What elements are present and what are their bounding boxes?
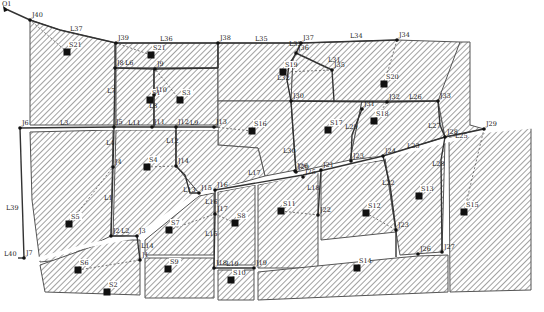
subcatchment-label: S21 — [69, 41, 82, 49]
junction-label: J22 — [319, 206, 331, 214]
link-l6[interactable] — [115, 68, 218, 69]
junction-label: J16 — [216, 181, 228, 189]
subcatchment-marker[interactable] — [66, 221, 73, 228]
link-l4[interactable] — [113, 127, 114, 167]
subcatchment-label: S21 — [153, 44, 166, 52]
link-label: L23 — [407, 142, 420, 150]
junction-label: J3 — [138, 227, 146, 235]
link-label: L25 — [455, 132, 468, 140]
subcatchment-marker[interactable] — [104, 289, 111, 296]
drainage-network-map: S1S2S3S4S5S6S7S8S9S10S11S12S13S14S15S16S… — [0, 0, 544, 312]
junction-label: J33 — [439, 92, 451, 100]
junction-label: J20 — [297, 163, 309, 171]
junction-label: J10 — [155, 86, 167, 94]
subcatchment-marker[interactable] — [232, 220, 239, 227]
link-l15[interactable] — [214, 214, 215, 268]
subcatchment-label: S3 — [182, 89, 191, 97]
link-label: L8 — [149, 102, 157, 110]
junction-label: J9 — [156, 60, 164, 68]
junction-label: J13 — [215, 118, 227, 126]
link-label: L12 — [166, 137, 179, 145]
subcatchment-marker[interactable] — [64, 49, 71, 56]
junction-label: J34 — [398, 31, 410, 39]
link-label: L27 — [428, 122, 441, 130]
subcatchment-areas — [30, 20, 531, 300]
subcatchment-marker[interactable] — [278, 208, 285, 215]
subcatchment-label: S18 — [376, 110, 389, 118]
link-label: L4 — [106, 139, 114, 147]
junction-label: J21 — [322, 161, 334, 169]
link-label: L3 — [60, 119, 68, 127]
subcatchment-label: S19 — [285, 61, 298, 69]
subcatchment-label: S20 — [386, 73, 399, 81]
link-label: L18 — [307, 184, 320, 192]
subcatchment-marker[interactable] — [363, 210, 370, 217]
link-label: L35 — [255, 35, 268, 43]
link-label: L2 — [121, 227, 129, 235]
junction-label: J5 — [115, 118, 123, 126]
link-label: L29 — [345, 123, 358, 131]
link-label: L32 — [277, 74, 290, 82]
subcatchment-label: S16 — [254, 120, 267, 128]
subcatchment-marker[interactable] — [148, 52, 155, 59]
subcatchment-label: S14 — [359, 257, 372, 265]
link-label: L6 — [125, 59, 133, 67]
subcatchment-marker[interactable] — [416, 193, 423, 200]
subcatchment-label: S9 — [170, 258, 179, 266]
subcatchment-label: S4 — [149, 156, 158, 164]
subcatchment-label: S5 — [71, 213, 80, 221]
subcatchment-label: S6 — [80, 259, 89, 267]
subcatchment-label: S11 — [283, 200, 296, 208]
subcatchment-marker[interactable] — [325, 127, 332, 134]
subcatchment-marker[interactable] — [381, 81, 388, 88]
link-label: L15 — [205, 230, 218, 238]
subcatchment-marker[interactable] — [371, 118, 378, 125]
link-label: L14 — [141, 242, 154, 250]
junction-label: J40 — [31, 11, 43, 19]
link-label: L9 — [190, 119, 198, 127]
link-label: L28 — [432, 160, 445, 168]
link-label: L36 — [160, 35, 173, 43]
subcatchment-marker[interactable] — [354, 265, 361, 272]
link-label: L34 — [350, 32, 363, 40]
link-l39[interactable] — [20, 128, 24, 258]
link-label: L22 — [382, 179, 395, 187]
junction-label: J31 — [363, 100, 375, 108]
link-l3[interactable] — [20, 127, 114, 128]
area-s21-west — [30, 20, 116, 125]
subcatchment-marker[interactable] — [165, 266, 172, 273]
link-label: L1 — [104, 194, 112, 202]
subcatchment-label: S10 — [233, 269, 246, 277]
subcatchment-marker[interactable] — [144, 164, 151, 171]
junction-label: J37 — [302, 34, 314, 42]
subcatchment-label: S12 — [368, 202, 381, 210]
subcatchment-marker[interactable] — [249, 128, 256, 135]
subcatchment-marker[interactable] — [177, 97, 184, 104]
subcatchment-label: S8 — [237, 212, 246, 220]
junction-label: J38 — [219, 34, 231, 42]
link-label: L33 — [289, 40, 302, 48]
junction-label: J15 — [200, 184, 212, 192]
junction-label: J27 — [443, 243, 455, 251]
junction-label: J24 — [384, 147, 396, 155]
link-label: L11 — [128, 119, 141, 127]
link-l5[interactable] — [114, 68, 115, 127]
subcatchment-marker[interactable] — [166, 227, 173, 234]
link-label: L26 — [409, 93, 422, 101]
link-label: L13 — [183, 186, 196, 194]
link-label: L39 — [6, 204, 19, 212]
link-label: L7 — [107, 87, 115, 95]
junction-label: J12 — [177, 118, 189, 126]
junction-label: J7 — [25, 249, 33, 257]
link-label: L19 — [226, 260, 239, 268]
subcatchment-label: S15 — [466, 201, 479, 209]
subcatchment-marker[interactable] — [228, 277, 235, 284]
junction-label: J6 — [21, 119, 29, 127]
subcatchment-label: S13 — [421, 185, 434, 193]
junction-label: J1 — [141, 251, 149, 259]
junction-label: J32 — [388, 93, 400, 101]
area-s12 — [321, 160, 396, 240]
subcatchment-marker[interactable] — [461, 209, 468, 216]
subcatchment-marker[interactable] — [75, 267, 82, 274]
link-label: L40 — [4, 250, 17, 258]
